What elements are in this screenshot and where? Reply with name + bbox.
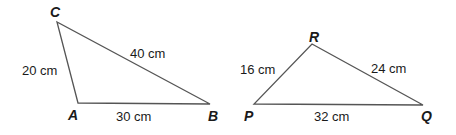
- vertex-label-r: R: [309, 29, 320, 45]
- vertex-label-q: Q: [421, 108, 432, 124]
- side-label-qr: 24 cm: [371, 61, 406, 76]
- side-label-ab: 30 cm: [116, 109, 151, 124]
- vertex-label-a: A: [67, 107, 78, 123]
- side-label-pr: 16 cm: [240, 62, 275, 77]
- side-label-ac: 20 cm: [22, 63, 57, 78]
- vertex-label-p: P: [244, 108, 254, 124]
- triangle-pqr: R P Q 16 cm 24 cm 32 cm: [240, 29, 432, 124]
- vertex-label-b: B: [208, 108, 218, 124]
- side-label-bc: 40 cm: [130, 46, 165, 61]
- vertex-label-c: C: [50, 4, 61, 20]
- triangle-diagram: C A B 20 cm 40 cm 30 cm R P Q 16 cm 24 c…: [0, 0, 456, 135]
- side-label-pq: 32 cm: [314, 109, 349, 124]
- triangle-abc-shape: [57, 22, 210, 104]
- triangle-abc: C A B 20 cm 40 cm 30 cm: [22, 4, 218, 124]
